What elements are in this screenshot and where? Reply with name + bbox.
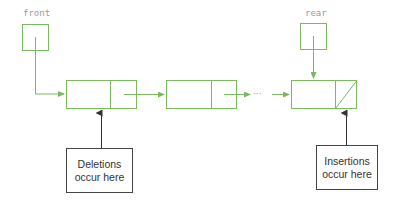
ellipsis: ··· (253, 89, 262, 99)
front-pointer-arrow (36, 37, 65, 94)
deletions-callout: Deletions occur here (66, 148, 133, 193)
rear-label: rear (305, 8, 327, 18)
insertions-line2: occur here (322, 168, 372, 181)
deletions-line2: occur here (75, 171, 125, 184)
insertions-line1: Insertions (322, 155, 372, 168)
deletions-line1: Deletions (75, 158, 125, 171)
null-pointer-slash (336, 81, 357, 109)
list-node-3 (292, 81, 357, 109)
insertions-callout: Insertions occur here (316, 145, 378, 190)
front-label: front (23, 8, 50, 18)
